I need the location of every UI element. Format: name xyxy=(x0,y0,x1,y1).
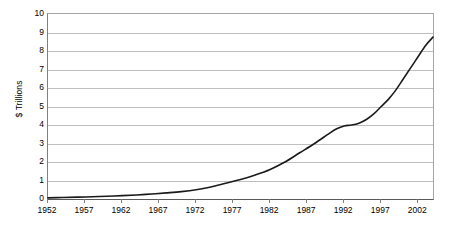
x-axis-tick-label: 1982 xyxy=(249,204,289,216)
y-axis-tick-label: 4 xyxy=(26,120,44,129)
series-path xyxy=(48,37,433,198)
y-axis-tick-label: 1 xyxy=(26,175,44,184)
y-axis-tick-label: 6 xyxy=(26,83,44,92)
x-axis-tick xyxy=(306,199,307,203)
y-axis-tick-label: 8 xyxy=(26,46,44,55)
x-axis-tick xyxy=(343,199,344,203)
x-axis-tick-label: 1962 xyxy=(101,204,141,216)
line-chart: $ Trillions 012345678910 195219571962196… xyxy=(0,0,450,230)
x-axis-tick xyxy=(84,199,85,203)
plot-area xyxy=(47,13,434,200)
x-axis-tick-label: 1972 xyxy=(175,204,215,216)
x-axis-tick-label: 1967 xyxy=(138,204,178,216)
x-axis-tick-label: 1957 xyxy=(64,204,104,216)
y-axis-tick-label: 10 xyxy=(26,9,44,18)
x-axis-tick xyxy=(380,199,381,203)
x-axis-tick-label: 1987 xyxy=(286,204,326,216)
series-line-total xyxy=(48,14,433,199)
x-axis-tick xyxy=(195,199,196,203)
x-axis-tick-label: 1977 xyxy=(212,204,252,216)
y-axis-tick-label: 5 xyxy=(26,101,44,110)
y-axis-tick-label: 2 xyxy=(26,157,44,166)
y-axis-tick-label: 0 xyxy=(26,194,44,203)
x-axis-tick xyxy=(158,199,159,203)
x-axis-tick-label: 1992 xyxy=(323,204,363,216)
x-axis-tick xyxy=(47,199,48,203)
x-axis-tick xyxy=(269,199,270,203)
y-axis-tick-labels: 012345678910 xyxy=(26,0,44,205)
x-axis-ticks xyxy=(47,199,433,203)
x-axis-tick-label: 2002 xyxy=(397,204,437,216)
y-axis-tick-label: 9 xyxy=(26,27,44,36)
x-axis-tick xyxy=(121,199,122,203)
x-axis-tick-labels: 1952195719621967197219771982198719921997… xyxy=(0,204,450,220)
y-axis-tick-label: 7 xyxy=(26,64,44,73)
y-axis-tick-label: 3 xyxy=(26,138,44,147)
x-axis-tick xyxy=(417,199,418,203)
y-axis-title: $ Trillions xyxy=(8,0,28,198)
x-axis-tick-label: 1997 xyxy=(360,204,400,216)
y-axis-title-label: $ Trillions xyxy=(13,80,23,117)
x-axis-tick-label: 1952 xyxy=(27,204,67,216)
x-axis-tick xyxy=(232,199,233,203)
